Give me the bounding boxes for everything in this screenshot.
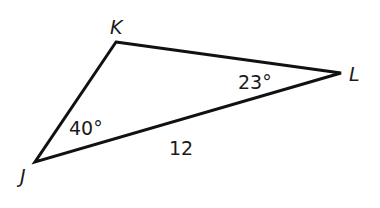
vertex-label-l: L xyxy=(349,63,360,85)
side-label-jl: 12 xyxy=(169,137,193,159)
angle-label-j: 40° xyxy=(69,117,103,139)
vertex-label-k: K xyxy=(110,16,124,38)
angle-label-l: 23° xyxy=(238,71,272,93)
vertex-label-j: J xyxy=(16,165,26,187)
triangle-diagram: K L J 23° 40° 12 xyxy=(0,0,380,208)
